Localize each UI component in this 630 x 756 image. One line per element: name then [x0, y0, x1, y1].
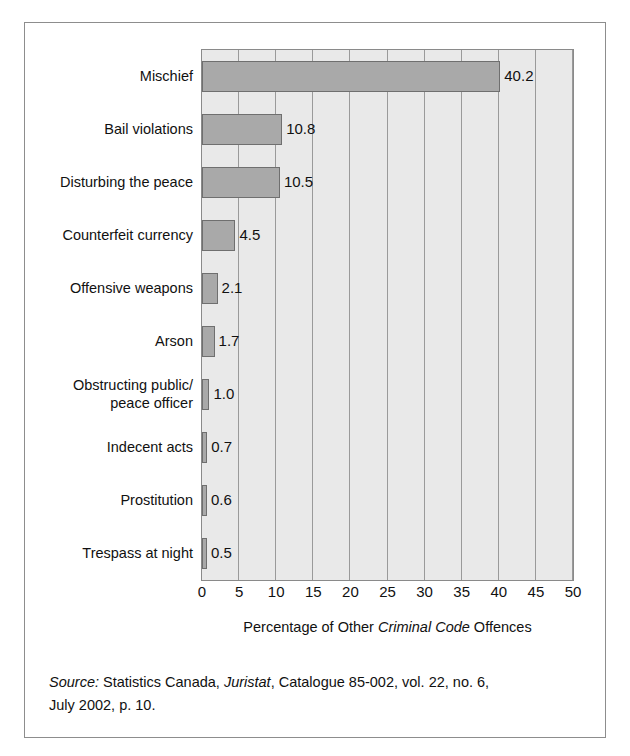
- bar-row: 0.5: [202, 527, 573, 580]
- figure-frame: MischiefBail violationsDisturbing the pe…: [24, 22, 606, 738]
- bar-value-label: 0.6: [211, 486, 232, 514]
- bar[interactable]: [202, 114, 282, 145]
- bar-row: 10.5: [202, 156, 573, 209]
- x-axis-title-italic: Criminal Code: [378, 619, 470, 635]
- bar-value-label: 0.5: [211, 539, 232, 567]
- source-publication: Juristat: [224, 674, 271, 690]
- bar[interactable]: [202, 326, 215, 357]
- bar-row: 1.7: [202, 315, 573, 368]
- x-tick-label: 35: [453, 583, 470, 600]
- x-tick-label: 20: [342, 583, 359, 600]
- bar-row: 40.2: [202, 50, 573, 103]
- category-label: Counterfeit currency: [25, 208, 193, 261]
- bar[interactable]: [202, 273, 218, 304]
- x-tick-label: 15: [305, 583, 322, 600]
- x-tick-label: 5: [235, 583, 243, 600]
- bar-value-label: 1.0: [213, 380, 234, 408]
- x-tick-label: 0: [198, 583, 206, 600]
- bar-value-label: 0.7: [211, 433, 232, 461]
- source-text-1: Statistics Canada,: [99, 674, 224, 690]
- source-note: Source: Statistics Canada, Juristat, Cat…: [49, 671, 569, 717]
- bar-value-label: 10.5: [284, 168, 313, 196]
- source-label: Source:: [49, 674, 99, 690]
- x-axis-title-post: Offences: [470, 619, 532, 635]
- bar-value-label: 1.7: [219, 327, 240, 355]
- bar[interactable]: [202, 538, 207, 569]
- bar-value-label: 10.8: [286, 115, 315, 143]
- bar-value-label: 2.1: [222, 274, 243, 302]
- bar-value-label: 40.2: [504, 62, 533, 90]
- bar[interactable]: [202, 485, 207, 516]
- bar-row: 1.0: [202, 368, 573, 421]
- x-tick-label: 25: [379, 583, 396, 600]
- x-tick-label: 10: [268, 583, 285, 600]
- category-label: Trespass at night: [25, 526, 193, 579]
- bar[interactable]: [202, 61, 500, 92]
- x-axis-title: Percentage of Other Criminal Code Offenc…: [201, 619, 574, 635]
- bar-row: 0.6: [202, 474, 573, 527]
- source-text-2: , Catalogue 85-002, vol. 22, no. 6,: [271, 674, 489, 690]
- bar-value-label: 4.5: [239, 221, 260, 249]
- category-label: Obstructing public/ peace officer: [25, 367, 193, 420]
- bar[interactable]: [202, 220, 235, 251]
- x-axis-tick-labels: 05101520253035404550: [201, 583, 574, 607]
- x-axis-title-pre: Percentage of Other: [243, 619, 378, 635]
- category-label: Prostitution: [25, 473, 193, 526]
- x-tick-label: 45: [528, 583, 545, 600]
- category-axis-labels: MischiefBail violationsDisturbing the pe…: [25, 49, 193, 579]
- x-tick-label: 30: [416, 583, 433, 600]
- category-label: Bail violations: [25, 102, 193, 155]
- category-label: Offensive weapons: [25, 261, 193, 314]
- category-label: Disturbing the peace: [25, 155, 193, 208]
- bar-row: 2.1: [202, 262, 573, 315]
- source-note-line-2: July 2002, p. 10.: [49, 694, 569, 717]
- x-tick-label: 50: [565, 583, 582, 600]
- bar-row: 4.5: [202, 209, 573, 262]
- source-note-line-1: Source: Statistics Canada, Juristat, Cat…: [49, 671, 569, 694]
- category-label: Indecent acts: [25, 420, 193, 473]
- category-label: Arson: [25, 314, 193, 367]
- category-label: Mischief: [25, 49, 193, 102]
- bar[interactable]: [202, 167, 280, 198]
- bar-row: 10.8: [202, 103, 573, 156]
- bar-row: 0.7: [202, 421, 573, 474]
- bar[interactable]: [202, 432, 207, 463]
- x-tick-label: 40: [490, 583, 507, 600]
- bar[interactable]: [202, 379, 209, 410]
- bar-chart-plot-area: 40.210.810.54.52.11.71.00.70.60.5: [201, 49, 574, 581]
